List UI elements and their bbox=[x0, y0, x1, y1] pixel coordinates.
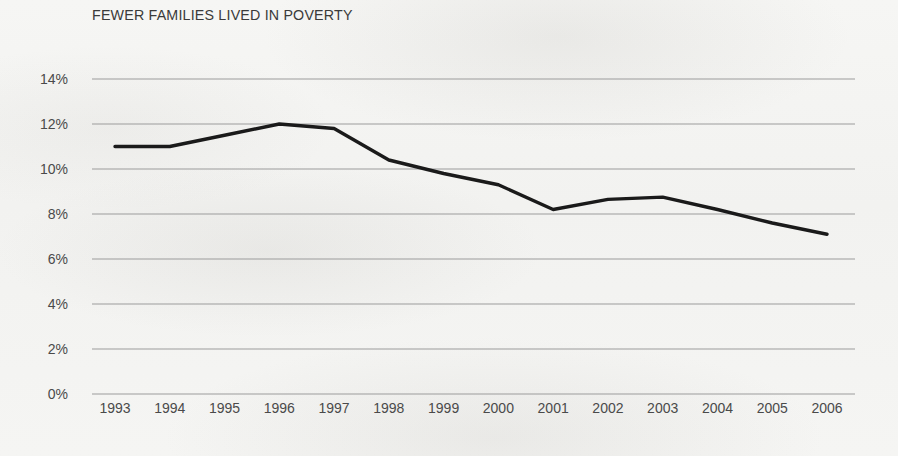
y-axis-label-6: 6% bbox=[22, 251, 68, 267]
chart-plot-area bbox=[0, 0, 898, 456]
x-axis-label-1996: 1996 bbox=[264, 400, 295, 416]
data-series-line bbox=[115, 124, 827, 234]
x-axis-label-2000: 2000 bbox=[483, 400, 514, 416]
x-axis-label-2006: 2006 bbox=[811, 400, 842, 416]
y-axis-label-0: 0% bbox=[22, 386, 68, 402]
x-axis-label-2005: 2005 bbox=[757, 400, 788, 416]
gridline-group bbox=[92, 79, 855, 394]
x-axis-label-1999: 1999 bbox=[428, 400, 459, 416]
x-axis-label-2001: 2001 bbox=[538, 400, 569, 416]
y-axis-label-8: 8% bbox=[22, 206, 68, 222]
x-axis-label-1995: 1995 bbox=[209, 400, 240, 416]
y-axis-label-4: 4% bbox=[22, 296, 68, 312]
x-axis-label-2002: 2002 bbox=[592, 400, 623, 416]
x-axis-label-1993: 1993 bbox=[99, 400, 130, 416]
x-axis-label-1998: 1998 bbox=[373, 400, 404, 416]
x-axis-label-2003: 2003 bbox=[647, 400, 678, 416]
y-axis-label-14: 14% bbox=[22, 71, 68, 87]
y-axis-label-10: 10% bbox=[22, 161, 68, 177]
x-axis-label-1997: 1997 bbox=[318, 400, 349, 416]
poverty-line-chart: FEWER FAMILIES LIVED IN POVERTY 0%2%4%6%… bbox=[0, 0, 898, 456]
x-axis-label-2004: 2004 bbox=[702, 400, 733, 416]
y-axis-label-12: 12% bbox=[22, 116, 68, 132]
y-axis-tick-labels: 0%2%4%6%8%10%12%14% bbox=[22, 0, 68, 456]
y-axis-label-2: 2% bbox=[22, 341, 68, 357]
x-axis-label-1994: 1994 bbox=[154, 400, 185, 416]
